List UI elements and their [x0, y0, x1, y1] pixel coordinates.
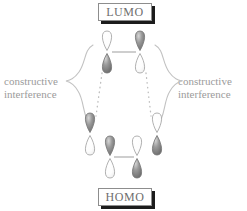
mo-interference-figure: LUMO HOMO constructive interference cons…: [0, 0, 247, 211]
orbital-lobe-lumo-left-top: [102, 31, 111, 51]
interference-dotted-lines: [96, 73, 151, 116]
orbital-lobe-lumo-right-top: [135, 31, 144, 51]
p-orbital-homo-outer-right: [152, 113, 161, 155]
orbital-lobe-homo-outer-right-top: [152, 113, 161, 133]
p-orbital-group: [85, 31, 161, 178]
orbital-lobe-homo-outer-right-bottom: [152, 136, 161, 156]
orbital-lobe-homo-inner-right-top: [132, 136, 141, 156]
dotted-right: [146, 73, 151, 116]
orbital-diagram-canvas: [0, 0, 247, 211]
orbital-lobe-homo-outer-left-top: [85, 113, 94, 133]
p-orbital-lumo-right: [135, 31, 144, 73]
orbital-lobe-homo-inner-right-bottom: [132, 159, 141, 179]
p-orbital-lumo-left: [102, 31, 111, 73]
interference-braces: [66, 45, 182, 126]
orbital-lobe-homo-inner-left-bottom: [105, 159, 114, 179]
orbital-lobe-lumo-left-bottom: [102, 54, 111, 74]
p-orbital-homo-inner-left: [105, 136, 114, 178]
dotted-left: [96, 73, 102, 116]
p-orbital-homo-outer-left: [85, 113, 94, 155]
orbital-lobe-homo-outer-left-bottom: [85, 136, 94, 156]
orbital-lobe-homo-inner-left-top: [105, 136, 114, 156]
orbital-lobe-lumo-right-bottom: [135, 54, 144, 74]
